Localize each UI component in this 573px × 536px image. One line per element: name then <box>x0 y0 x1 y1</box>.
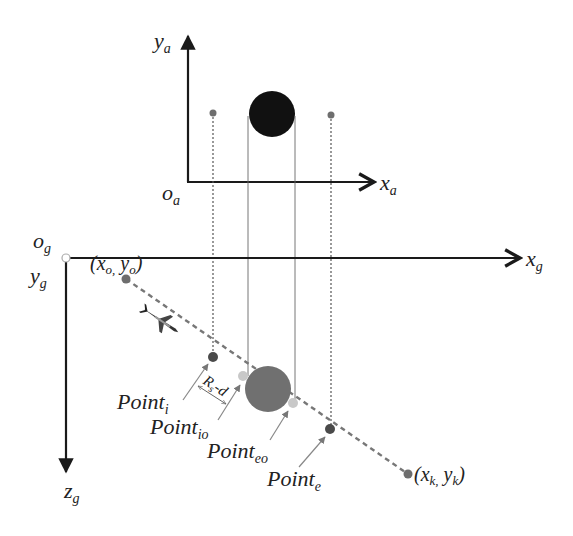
air-exit-dot <box>328 112 335 119</box>
ground-obstacle-circle <box>245 366 291 412</box>
air-y-axis-label: ya <box>152 28 171 56</box>
point-i-label: Pointi <box>116 389 169 417</box>
air-entry-dot <box>210 110 217 117</box>
air-origin-label: oa <box>162 180 180 208</box>
air-frame: ya oa xa <box>152 28 397 208</box>
pointer-arrow-point-e <box>299 437 325 467</box>
pointer-arrow-point-eo <box>270 411 288 440</box>
ground-z-axis-label: zg <box>63 478 80 506</box>
air-obstacle-circle <box>249 91 295 137</box>
point-io-label: Pointio <box>149 414 209 442</box>
point-eo-dot <box>288 398 298 408</box>
point-io-dot <box>238 371 248 381</box>
point-i-dot <box>208 352 218 362</box>
point-e-label: Pointe <box>266 466 321 494</box>
aircraft-icon <box>136 299 184 340</box>
diagram-canvas: ya oa xa og yg xg zg <box>0 0 573 536</box>
ground-origin-label: og <box>33 228 51 256</box>
point-eo-label: Pointeo <box>206 438 268 466</box>
point-e-dot <box>325 424 335 434</box>
trajectory: (xo, yo) (xk, yk) <box>90 252 465 488</box>
end-point-label: (xk, yk) <box>414 463 465 488</box>
dimension-rs-d: Rs-d <box>198 372 231 404</box>
air-x-axis-label: xa <box>379 170 397 198</box>
ground-x-axis-label: xg <box>525 246 543 274</box>
ground-y-axis-label: yg <box>28 263 47 291</box>
end-point <box>404 470 413 479</box>
start-point-label: (xo, yo) <box>90 252 143 277</box>
ground-origin-marker <box>62 254 70 262</box>
